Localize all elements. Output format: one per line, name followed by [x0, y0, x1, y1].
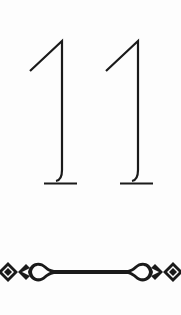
scroll-divider-icon: [0, 255, 181, 295]
table-number: 11: [0, 0, 181, 200]
